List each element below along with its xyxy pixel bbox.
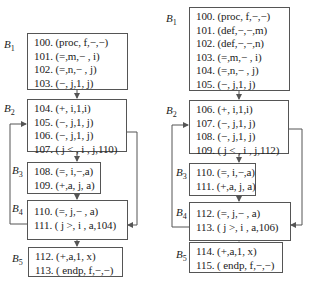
- quad-line: 106. (+, i,1,i): [196, 103, 288, 117]
- block-label-b3: B3: [176, 166, 187, 181]
- basic-block-b1: 100. (proc, f,−,−) 101. (=,m,− , i) 102.…: [27, 33, 128, 90]
- block-label-b2: B2: [4, 102, 15, 117]
- quad-line: 113. ( endp, f,−,−): [35, 264, 122, 278]
- quad-line: 110. (=, j,− , a): [34, 205, 127, 219]
- quad-line: 100. (proc, f,−,−): [34, 36, 127, 50]
- basic-block-b5: 114. (+,a,1, x) 115. ( endp, f,−,−): [189, 242, 283, 273]
- basic-block-b5: 112. (+,a,1, x) 113. ( endp, f,−,−): [28, 247, 123, 277]
- quad-line: 109. ( j < , i , j,112): [196, 144, 288, 158]
- quad-line: 105. (−, j,1, j): [196, 78, 289, 92]
- basic-block-b4: 110. (=, j,− , a) 111. ( j >, i , a,104): [27, 200, 128, 240]
- basic-block-b4: 112. (=, j,− , a) 113. ( j >, i , a,106): [189, 202, 291, 241]
- basic-block-b3: 108. (=, i,−,a) 109. (+,a, j, a): [27, 162, 101, 194]
- quad-line: 101. (def,−,−,m): [196, 24, 289, 38]
- quad-line: 113. ( j >, i , a,106): [196, 221, 290, 235]
- quad-line: 107. (−, j,1, j): [196, 117, 288, 131]
- block-label-b2: B2: [166, 104, 177, 119]
- quad-line: 112. (+,a,1, x): [35, 250, 122, 264]
- quad-line: 102. (=,n,− , j): [34, 63, 127, 77]
- quad-line: 104. (+, i,1,i): [34, 102, 126, 116]
- quad-line: 103. (=,m,− , i): [196, 51, 289, 65]
- quad-line: 112. (=, j,− , a): [196, 207, 290, 221]
- basic-block-b2: 104. (+, i,1,i) 105. (−, j,1, j) 106. (−…: [27, 99, 127, 152]
- quad-line: 114. (+,a,1, x): [196, 245, 282, 259]
- quad-line: 108. (=, i,−,a): [34, 165, 100, 179]
- block-label-b5: B5: [176, 248, 187, 263]
- block-label-b3: B3: [12, 164, 23, 179]
- basic-block-b3: 110. (=, i,−,a) 111. (+,a, j, a): [189, 163, 256, 196]
- block-label-b5: B5: [12, 252, 23, 267]
- block-label-b1: B1: [4, 38, 15, 53]
- quad-line: 106. (−, j,1, j): [34, 129, 126, 143]
- quad-line: 103. (−, j,1, j): [34, 77, 127, 91]
- quad-line: 100. (proc, f,−,−): [196, 10, 289, 24]
- basic-block-b2: 106. (+, i,1,i) 107. (−, j,1, j) 108. (−…: [189, 100, 289, 154]
- quad-line: 111. (+,a, j, a): [196, 180, 255, 194]
- quad-line: 107. ( j < , i , j,110): [34, 143, 126, 157]
- block-label-b4: B4: [12, 202, 23, 217]
- quad-line: 111. ( j >, i , a,104): [34, 219, 127, 233]
- quad-line: 115. ( endp, f,−,−): [196, 259, 282, 273]
- quad-line: 110. (=, i,−,a): [196, 166, 255, 180]
- basic-block-b1: 100. (proc, f,−,−) 101. (def,−,−,m) 102.…: [189, 7, 290, 91]
- block-label-b1: B1: [166, 12, 177, 27]
- quad-line: 105. (−, j,1, j): [34, 116, 126, 130]
- quad-line: 108. (−, j,1, j): [196, 130, 288, 144]
- quad-line: 104. (=,n,− , j): [196, 64, 289, 78]
- quad-line: 101. (=,m,− , i): [34, 50, 127, 64]
- quad-line: 109. (+,a, j, a): [34, 179, 100, 193]
- quad-line: 102. (def,−,−,n): [196, 37, 289, 51]
- block-label-b4: B4: [176, 206, 187, 221]
